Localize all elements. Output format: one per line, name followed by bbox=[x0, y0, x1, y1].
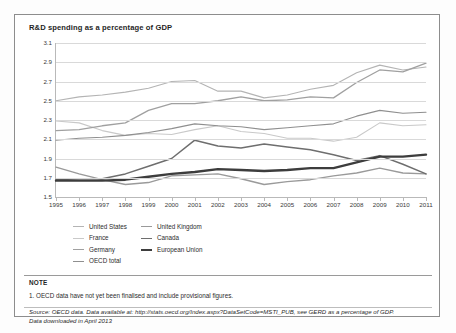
chart-legend: United StatesFranceGermanyOECD total Uni… bbox=[73, 221, 313, 273]
grid-line bbox=[56, 139, 426, 140]
legend-item: Germany bbox=[73, 244, 127, 256]
grid-line bbox=[56, 43, 426, 44]
note-item: 1. OECD data have not yet been finalised… bbox=[29, 292, 429, 299]
y-axis-tick-label: 1.9 bbox=[43, 155, 52, 161]
legend-item: United States bbox=[73, 221, 127, 233]
series-line bbox=[56, 65, 426, 101]
x-axis-tick-label: 2003 bbox=[234, 202, 248, 208]
page-title: R&D spending as a percentage of GDP bbox=[29, 23, 172, 32]
note-footer-divider bbox=[24, 307, 432, 308]
legend-swatch-icon bbox=[73, 249, 84, 250]
legend-item-label: France bbox=[89, 235, 109, 241]
x-axis-tick-label: 2004 bbox=[257, 202, 271, 208]
y-axis-tick-label: 2.7 bbox=[43, 78, 52, 84]
screenshot-page: R&D spending as a percentage of GDP 3.12… bbox=[0, 0, 456, 333]
legend-item-label: Canada bbox=[157, 235, 179, 241]
legend-item: Canada bbox=[141, 233, 203, 245]
y-axis-tick-label: 2.9 bbox=[43, 59, 52, 65]
legend-item: United Kingdom bbox=[141, 221, 203, 233]
source-note: Source: OECD data. Data available at: ht… bbox=[29, 307, 429, 326]
y-axis-tick-label: 2.1 bbox=[43, 136, 52, 142]
source-line-2: Data downloaded in April 2013 bbox=[29, 317, 112, 324]
x-axis-tick-label: 2000 bbox=[165, 202, 179, 208]
x-axis-tick-label: 2002 bbox=[211, 202, 225, 208]
legend-swatch-icon bbox=[141, 238, 152, 239]
grid-line bbox=[56, 101, 426, 102]
note-section: NOTE 1. OECD data have not yet been fina… bbox=[29, 279, 429, 326]
chart-plot-area: 3.12.92.72.52.32.11.91.71.51995199619971… bbox=[55, 43, 426, 198]
x-axis-tick-label: 1996 bbox=[72, 202, 86, 208]
x-axis-tick-label: 2007 bbox=[327, 202, 341, 208]
legend-item: European Union bbox=[141, 244, 203, 256]
legend-swatch-icon bbox=[141, 226, 152, 227]
legend-item-label: European Union bbox=[157, 247, 203, 253]
x-axis-tick-label: 2011 bbox=[419, 202, 432, 208]
legend-swatch-icon bbox=[73, 238, 84, 239]
y-axis-tick-label: 1.7 bbox=[43, 175, 52, 181]
grid-line bbox=[56, 120, 426, 121]
note-divider bbox=[24, 275, 432, 276]
legend-item-label: United States bbox=[89, 224, 127, 230]
legend-column-right: United KingdomCanadaEuropean Union bbox=[141, 221, 203, 256]
x-axis-tick-label: 1998 bbox=[118, 202, 132, 208]
x-axis-tick-label: 2010 bbox=[396, 202, 410, 208]
x-axis-tick-label: 2005 bbox=[280, 202, 294, 208]
legend-swatch-icon bbox=[141, 249, 152, 251]
y-axis-tick-label: 2.5 bbox=[43, 98, 52, 104]
legend-item-label: United Kingdom bbox=[157, 224, 202, 230]
legend-swatch-icon bbox=[73, 261, 84, 262]
x-axis-tick-label: 2009 bbox=[373, 202, 387, 208]
x-axis-tick-label: 2008 bbox=[350, 202, 364, 208]
grid-line bbox=[56, 178, 426, 179]
note-heading: NOTE bbox=[29, 279, 429, 286]
x-axis-tick-label: 2006 bbox=[303, 202, 317, 208]
x-axis-tick-label: 1999 bbox=[142, 202, 156, 208]
x-axis-tick-label: 1997 bbox=[95, 202, 109, 208]
legend-item: OECD total bbox=[73, 256, 127, 268]
grid-line bbox=[56, 62, 426, 63]
source-line-1: Source: OECD data. Data available at: ht… bbox=[29, 308, 394, 315]
legend-item-label: OECD total bbox=[89, 258, 121, 264]
legend-column-left: United StatesFranceGermanyOECD total bbox=[73, 221, 127, 267]
series-line bbox=[56, 110, 426, 140]
legend-item: France bbox=[73, 233, 127, 245]
grid-line bbox=[56, 82, 426, 83]
y-axis-tick-label: 3.1 bbox=[43, 40, 52, 46]
x-axis-tick-label: 2001 bbox=[188, 202, 202, 208]
y-axis-tick-label: 2.3 bbox=[43, 117, 52, 123]
x-axis-tick-label: 1995 bbox=[49, 202, 63, 208]
y-axis-tick-label: 1.5 bbox=[43, 194, 52, 200]
grid-line bbox=[56, 159, 426, 160]
chart-plot-wrapper: 3.12.92.72.52.32.11.91.71.51995199619971… bbox=[29, 37, 429, 207]
legend-item-label: Germany bbox=[89, 247, 115, 253]
chart-card: R&D spending as a percentage of GDP 3.12… bbox=[14, 14, 440, 317]
legend-swatch-icon bbox=[73, 226, 84, 227]
